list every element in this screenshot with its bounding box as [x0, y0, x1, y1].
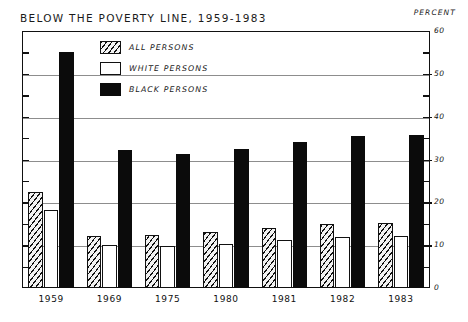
y-axis-label-60: 60 — [434, 27, 444, 35]
y-axis-label-40: 40 — [434, 113, 444, 121]
x-axis-label-1969: 1969 — [97, 294, 122, 304]
legend-swatch-hatched-icon — [100, 41, 121, 54]
page-title: BELOW THE POVERTY LINE, 1959-1983 — [20, 11, 267, 24]
bar-1983-all — [378, 223, 393, 288]
y-axis-label-0: 0 — [434, 284, 439, 292]
legend-item-white-persons: WHITE PERSONS — [100, 61, 208, 75]
x-axis-label-1982: 1982 — [330, 294, 355, 304]
bar-1983-black — [409, 135, 424, 288]
bar-1982-white — [335, 237, 350, 288]
legend-item-black-persons: BLACK PERSONS — [100, 82, 208, 96]
legend: ALL PERSONS WHITE PERSONS BLACK PERSONS — [100, 40, 208, 96]
y-axis-unit-label: PERCENT — [414, 8, 456, 17]
y-axis-label-50: 50 — [434, 70, 444, 78]
legend-label-all-persons: ALL PERSONS — [129, 43, 195, 52]
y-axis-label-10: 10 — [434, 241, 444, 249]
legend-swatch-white-icon — [100, 62, 121, 75]
legend-swatch-black-icon — [100, 83, 121, 96]
bar-1981-black — [293, 142, 308, 288]
x-axis-label-1980: 1980 — [213, 294, 238, 304]
bar-1969-white — [102, 245, 117, 288]
poverty-chart-figure: BELOW THE POVERTY LINE, 1959-1983 PERCEN… — [0, 0, 468, 322]
bar-1969-black — [118, 150, 133, 288]
bar-1975-white — [160, 246, 175, 288]
bar-1969-all — [87, 236, 102, 288]
x-axis-label-1983: 1983 — [388, 294, 413, 304]
legend-item-all-persons: ALL PERSONS — [100, 40, 208, 54]
bar-1983-white — [394, 236, 409, 288]
bar-1982-black — [351, 136, 366, 288]
x-axis-label-1959: 1959 — [38, 294, 63, 304]
bar-1982-all — [320, 224, 335, 288]
bars-group — [22, 31, 430, 288]
bar-1980-white — [219, 244, 234, 288]
bar-1975-black — [176, 154, 191, 288]
bar-1981-all — [262, 228, 277, 288]
legend-label-black-persons: BLACK PERSONS — [129, 85, 208, 94]
bar-1959-all — [28, 192, 43, 288]
x-axis-label-1981: 1981 — [272, 294, 297, 304]
y-axis-label-30: 30 — [434, 156, 444, 164]
bar-1959-black — [59, 52, 74, 288]
bar-1959-white — [44, 210, 59, 288]
bar-1980-black — [234, 149, 249, 288]
x-axis-label-1975: 1975 — [155, 294, 180, 304]
bar-1980-all — [203, 232, 218, 288]
bar-1981-white — [277, 240, 292, 288]
y-axis-label-20: 20 — [434, 198, 444, 206]
legend-label-white-persons: WHITE PERSONS — [129, 64, 208, 73]
bar-1975-all — [145, 235, 160, 288]
